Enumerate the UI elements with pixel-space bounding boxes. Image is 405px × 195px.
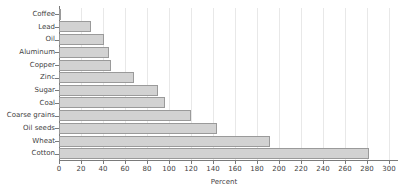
bar	[59, 85, 158, 96]
bar-row	[59, 85, 389, 96]
bar	[59, 60, 111, 71]
bar-row	[59, 60, 389, 71]
x-tick-mark	[147, 160, 148, 164]
bar-row	[59, 47, 389, 58]
x-tick-label: 180	[250, 165, 263, 174]
x-tick-label: 80	[143, 165, 152, 174]
y-axis-label: Coffee	[0, 10, 55, 19]
x-tick-mark	[213, 160, 214, 164]
bar-chart: 0204060801001201401601802002202402602803…	[0, 0, 405, 195]
y-tick-mark	[55, 65, 59, 66]
bar	[59, 72, 134, 83]
y-axis-label: Copper	[0, 61, 55, 70]
y-tick-mark	[55, 78, 59, 79]
bar	[59, 110, 191, 121]
x-tick-label: 120	[184, 165, 197, 174]
x-tick-mark	[345, 160, 346, 164]
x-tick-mark	[301, 160, 302, 164]
x-tick-label: 200	[272, 165, 285, 174]
bar-row	[59, 97, 389, 108]
y-axis-label: Aluminum	[0, 48, 55, 57]
y-tick-mark	[55, 90, 59, 91]
bar	[59, 123, 217, 134]
x-tick-label: 220	[294, 165, 307, 174]
x-tick-mark	[169, 160, 170, 164]
x-tick-label: 100	[162, 165, 175, 174]
x-tick-mark	[257, 160, 258, 164]
x-tick-mark	[125, 160, 126, 164]
y-tick-mark	[55, 52, 59, 53]
y-tick-mark	[55, 27, 59, 28]
y-axis-label: Coarse grains	[0, 111, 55, 120]
x-tick-label: 240	[316, 165, 329, 174]
bar	[59, 9, 61, 20]
y-axis-label: Zinc	[0, 73, 55, 82]
bar-row	[59, 72, 389, 83]
x-tick-label: 140	[206, 165, 219, 174]
x-tick-mark	[59, 160, 60, 164]
y-tick-mark	[55, 103, 59, 104]
x-axis-title: Percent	[59, 178, 389, 187]
x-tick-mark	[191, 160, 192, 164]
y-tick-mark	[55, 40, 59, 41]
y-axis-label: Lead	[0, 23, 55, 32]
x-tick-label: 0	[57, 165, 61, 174]
bar-row	[59, 136, 389, 147]
x-tick-mark	[323, 160, 324, 164]
y-axis-label: Cotton	[0, 149, 55, 158]
bar	[59, 136, 270, 147]
y-axis-label: Sugar	[0, 86, 55, 95]
bar-row	[59, 110, 389, 121]
y-tick-mark	[55, 128, 59, 129]
bar	[59, 148, 369, 159]
bar	[59, 47, 109, 58]
x-tick-label: 280	[360, 165, 373, 174]
x-tick-label: 300	[382, 165, 395, 174]
bar-row	[59, 148, 389, 159]
y-axis-label: Oil seeds	[0, 124, 55, 133]
gridline	[389, 8, 390, 160]
x-tick-mark	[367, 160, 368, 164]
x-tick-label: 40	[99, 165, 108, 174]
y-tick-mark	[55, 116, 59, 117]
bar-row	[59, 123, 389, 134]
bar-row	[59, 21, 389, 32]
bar	[59, 34, 104, 45]
x-tick-mark	[389, 160, 390, 164]
x-tick-label: 260	[338, 165, 351, 174]
y-axis-label: Coal	[0, 99, 55, 108]
x-tick-label: 60	[121, 165, 130, 174]
x-tick-label: 160	[228, 165, 241, 174]
bar	[59, 97, 165, 108]
y-tick-mark	[55, 14, 59, 15]
x-tick-mark	[235, 160, 236, 164]
y-tick-mark	[55, 154, 59, 155]
y-axis-label: Wheat	[0, 137, 55, 146]
x-tick-label: 20	[77, 165, 86, 174]
bar-row	[59, 9, 389, 20]
y-tick-mark	[55, 141, 59, 142]
x-tick-mark	[81, 160, 82, 164]
bar-row	[59, 34, 389, 45]
x-tick-mark	[279, 160, 280, 164]
x-tick-mark	[103, 160, 104, 164]
x-axis-line	[59, 160, 398, 161]
y-axis-label: Oil	[0, 35, 55, 44]
bar	[59, 21, 91, 32]
